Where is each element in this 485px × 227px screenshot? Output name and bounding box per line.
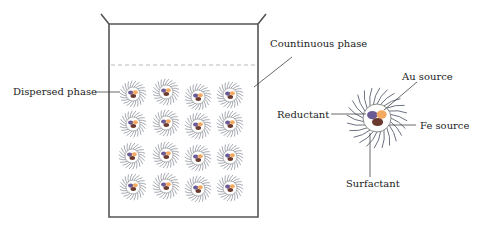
- reductant-blob: [128, 183, 133, 187]
- reductant-blob: [161, 88, 166, 92]
- au-source-blob: [198, 154, 203, 158]
- fe-source-blob: [163, 123, 169, 127]
- reductant-blob: [127, 152, 132, 156]
- au-source-blob: [198, 122, 203, 126]
- reductant-blob: [161, 182, 166, 186]
- reductant-blob: [193, 122, 198, 126]
- micelle: [119, 143, 145, 169]
- micelle: [120, 174, 146, 200]
- fe-source-blob: [130, 187, 136, 191]
- micelle: [153, 173, 179, 199]
- reductant-blob: [225, 153, 230, 157]
- au-source-blob: [133, 120, 138, 124]
- reductant-blob: [225, 120, 230, 124]
- au-source-blob: [166, 151, 171, 155]
- reductant-label: Reductant: [277, 110, 329, 120]
- au-source-blob: [230, 153, 235, 157]
- fe-source-blob: [227, 124, 233, 128]
- microemulsion-diagram: Dispersed phase Countinuous phase Au sou…: [0, 0, 485, 227]
- reductant-blob: [367, 111, 378, 119]
- au-source-blob: [198, 185, 203, 189]
- au-source-blob: [166, 88, 171, 92]
- micelle: [185, 176, 211, 202]
- au-source-blob: [133, 90, 138, 94]
- micelle-detail: [347, 88, 407, 148]
- fe-source-blob: [129, 156, 135, 160]
- micelle-grid: [119, 79, 243, 202]
- reductant-blob: [225, 184, 230, 188]
- fe-source-blob: [195, 97, 201, 101]
- reductant-blob: [193, 185, 198, 189]
- micelle: [120, 81, 146, 107]
- fe-source-blob: [163, 92, 169, 96]
- au-source-blob: [166, 119, 171, 123]
- au-source-label: Au source: [402, 72, 453, 82]
- micelle: [217, 175, 243, 201]
- micelle: [217, 144, 243, 170]
- fe-source-blob: [130, 94, 136, 98]
- reductant-blob: [161, 119, 166, 123]
- au-source-blob: [132, 152, 137, 156]
- micelle: [185, 113, 211, 139]
- micelle: [217, 111, 243, 137]
- au-source-blob: [377, 110, 387, 118]
- au-source-blob: [230, 184, 235, 188]
- au-source-blob: [133, 183, 138, 187]
- fe-source-blob: [227, 157, 233, 161]
- reductant-blob: [193, 93, 198, 97]
- fe-source-blob: [163, 186, 169, 190]
- reductant-blob: [128, 120, 133, 124]
- fe-source-blob: [195, 158, 201, 162]
- au-source-blob: [166, 182, 171, 186]
- micelle: [120, 111, 146, 137]
- diagram-graphics: [0, 0, 485, 227]
- fe-source-blob: [195, 126, 201, 130]
- au-source-blob: [230, 91, 235, 95]
- surfactant-label: Surfactant: [346, 179, 400, 189]
- micelle: [153, 79, 179, 105]
- micelle: [217, 82, 243, 108]
- micelle: [153, 142, 179, 168]
- micelle: [347, 88, 407, 148]
- continuous-phase-label: Countinuous phase: [270, 39, 367, 49]
- dispersed-phase-label: Dispersed phase: [13, 87, 97, 97]
- reductant-blob: [128, 90, 133, 94]
- micelle: [185, 84, 211, 110]
- fe-source-blob: [227, 188, 233, 192]
- fe-source-blob: [227, 95, 233, 99]
- reductant-blob: [161, 151, 166, 155]
- micelle: [185, 145, 211, 171]
- reductant-blob: [225, 91, 230, 95]
- micelle: [153, 110, 179, 136]
- fe-source-blob: [130, 124, 136, 128]
- fe-source-blob: [372, 118, 383, 126]
- fe-source-label: Fe source: [420, 121, 469, 131]
- au-source-blob: [198, 93, 203, 97]
- reductant-blob: [193, 154, 198, 158]
- fe-source-blob: [195, 189, 201, 193]
- fe-source-blob: [163, 155, 169, 159]
- au-source-blob: [230, 120, 235, 124]
